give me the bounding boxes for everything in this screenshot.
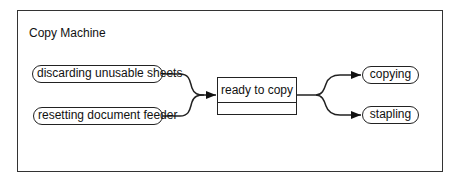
transition-ready-to-copying: [296, 75, 361, 95]
state-label: copying: [370, 67, 411, 81]
state-discarding-unusable-sheets[interactable]: discarding unusable sheets: [32, 65, 163, 83]
state-label: stapling: [370, 107, 411, 121]
state-stapling[interactable]: stapling: [362, 106, 419, 124]
state-resetting-document-feeder[interactable]: resetting document feeder: [33, 107, 163, 125]
state-copying[interactable]: copying: [362, 66, 419, 84]
state-name: ready to copy: [218, 78, 296, 103]
state-ready-to-copy[interactable]: ready to copy: [217, 77, 297, 115]
state-label: discarding unusable sheets: [37, 66, 182, 80]
state-label: resetting document feeder: [38, 108, 177, 122]
transition-ready-to-stapling: [316, 95, 361, 115]
